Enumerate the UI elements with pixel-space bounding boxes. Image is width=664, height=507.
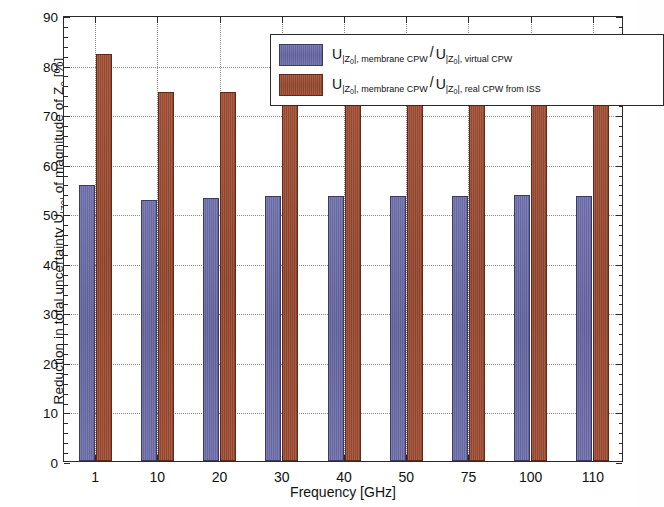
y-axis-minor-tick (64, 423, 68, 424)
y-axis-minor-tick (64, 76, 68, 77)
y-axis-minor-tick (619, 185, 623, 186)
y-axis-minor-tick (619, 453, 623, 454)
y-axis-minor-tick (64, 334, 68, 335)
y-axis-minor-tick (64, 453, 68, 454)
y-axis-tick-mark (64, 17, 70, 18)
bar-series-0-1 (79, 185, 95, 461)
y-axis-minor-tick (64, 106, 68, 107)
y-axis-minor-tick (619, 384, 623, 385)
plot-area: 01020304050607080901102030405075100110 U… (63, 16, 623, 462)
y-axis-minor-tick (619, 285, 623, 286)
legend-entry-1[interactable]: U|Z0|, membrane CPW/U|Z0|, real CPW from… (279, 71, 655, 99)
y-axis-minor-tick (64, 285, 68, 286)
y-axis-minor-tick (64, 37, 68, 38)
y-axis-minor-tick (619, 156, 623, 157)
y-axis-minor-tick (64, 96, 68, 97)
bar-series-1-30 (282, 91, 298, 461)
x-axis-tick-mark (531, 455, 532, 461)
y-axis-minor-tick (619, 245, 623, 246)
x-axis-tick-mark (406, 17, 407, 23)
x-axis-tick-label: 100 (501, 469, 561, 485)
y-axis-tick-label: 70 (26, 109, 58, 124)
bar-series-0-40 (328, 196, 344, 461)
y-axis-minor-tick (64, 304, 68, 305)
series-1-swatch (279, 74, 323, 96)
y-axis-tick-mark (616, 314, 622, 315)
x-axis-tick-label: 50 (376, 469, 436, 485)
x-axis-tick-mark (220, 455, 221, 461)
bar-series-1-10 (158, 92, 174, 461)
y-axis-minor-tick (64, 324, 68, 325)
x-axis-tick-mark (593, 455, 594, 461)
y-axis-minor-tick (64, 344, 68, 345)
y-axis-minor-tick (64, 57, 68, 58)
x-axis-tick-mark (220, 17, 221, 23)
y-axis-minor-tick (619, 27, 623, 28)
y-axis-minor-tick (619, 146, 623, 147)
y-axis-minor-tick (619, 404, 623, 405)
y-axis-tick-label: 10 (26, 406, 58, 421)
y-axis-minor-tick (64, 354, 68, 355)
chart-legend: U|Z0|, membrane CPW/U|Z0|, virtual CPWU|… (270, 34, 664, 106)
y-axis-minor-tick (64, 225, 68, 226)
y-axis-minor-tick (619, 443, 623, 444)
y-axis-tick-label: 80 (26, 59, 58, 74)
x-axis-tick-label: 30 (252, 469, 312, 485)
x-axis-tick-mark (531, 17, 532, 23)
y-axis-tick-label: 20 (26, 356, 58, 371)
y-axis-minor-tick (64, 205, 68, 206)
bar-series-1-110 (593, 91, 609, 461)
x-axis-tick-mark (468, 455, 469, 461)
bar-series-0-10 (141, 200, 157, 461)
y-axis-minor-tick (64, 185, 68, 186)
y-axis-tick-mark (64, 116, 70, 117)
y-axis-tick-mark (64, 166, 70, 167)
bar-series-0-50 (390, 196, 406, 461)
y-axis-minor-tick (64, 245, 68, 246)
y-axis-minor-tick (619, 334, 623, 335)
y-axis-minor-tick (619, 423, 623, 424)
legend-entry-0[interactable]: U|Z0|, membrane CPW/U|Z0|, virtual CPW (279, 41, 655, 69)
y-axis-minor-tick (64, 394, 68, 395)
x-axis-tick-label: 10 (127, 469, 187, 485)
y-axis-tick-label: 50 (26, 208, 58, 223)
bar-series-1-20 (220, 92, 236, 461)
y-axis-tick-label: 30 (26, 307, 58, 322)
y-axis-minor-tick (619, 344, 623, 345)
y-axis-minor-tick (64, 195, 68, 196)
bar-series-1-100 (531, 91, 547, 461)
bar-series-1-50 (407, 91, 423, 461)
y-axis-minor-tick (619, 126, 623, 127)
y-axis-minor-tick (64, 404, 68, 405)
bar-series-0-75 (452, 196, 468, 461)
y-axis-minor-tick (64, 126, 68, 127)
bar-series-0-30 (265, 196, 281, 461)
y-axis-tick-mark (616, 116, 622, 117)
y-axis-tick-mark (616, 17, 622, 18)
y-axis-minor-tick (619, 136, 623, 137)
y-axis-minor-tick (64, 374, 68, 375)
y-axis-minor-tick (64, 27, 68, 28)
y-axis-minor-tick (619, 205, 623, 206)
y-axis-minor-tick (64, 146, 68, 147)
y-axis-tick-mark (616, 265, 622, 266)
y-axis-minor-tick (64, 443, 68, 444)
y-axis-minor-tick (619, 394, 623, 395)
x-axis-tick-label: 1 (65, 469, 125, 485)
x-axis-tick-label: 40 (314, 469, 374, 485)
bar-series-0-110 (576, 196, 592, 461)
y-axis-tick-label: 40 (26, 257, 58, 272)
y-axis-minor-tick (619, 255, 623, 256)
y-axis-minor-tick (619, 275, 623, 276)
x-axis-tick-mark (95, 17, 96, 23)
x-axis-tick-label: 20 (190, 469, 250, 485)
y-axis-minor-tick (619, 304, 623, 305)
y-axis-minor-tick (64, 433, 68, 434)
bar-series-1-40 (345, 91, 361, 461)
y-axis-minor-tick (64, 295, 68, 296)
y-axis-minor-tick (64, 275, 68, 276)
y-axis-minor-tick (64, 136, 68, 137)
bar-series-1-75 (469, 91, 485, 461)
x-axis-tick-mark (468, 17, 469, 23)
